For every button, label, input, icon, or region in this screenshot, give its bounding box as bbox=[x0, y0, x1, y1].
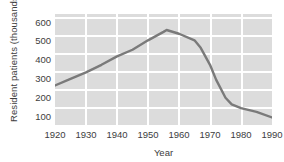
x-tick-label: 1950 bbox=[137, 129, 158, 140]
x-tick-label: 1980 bbox=[230, 129, 251, 140]
x-axis-ticks: 19201930194019501960197019801990 bbox=[0, 0, 284, 162]
x-tick-label: 1920 bbox=[44, 129, 65, 140]
x-tick-label: 1960 bbox=[168, 129, 189, 140]
chart-figure: Resident patients (thousands) 1002003004… bbox=[0, 0, 284, 162]
x-tick-label: 1970 bbox=[199, 129, 220, 140]
x-tick-label: 1990 bbox=[261, 129, 282, 140]
x-axis-label: Year bbox=[55, 147, 272, 158]
x-tick-label: 1940 bbox=[106, 129, 127, 140]
x-tick-label: 1930 bbox=[75, 129, 96, 140]
